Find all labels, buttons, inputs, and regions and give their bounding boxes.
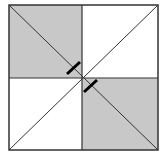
square-diagonals-figure <box>0 0 167 158</box>
